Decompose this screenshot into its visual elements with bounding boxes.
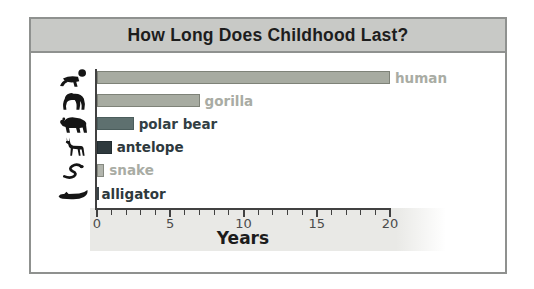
x-axis-minor-tick	[111, 210, 112, 215]
y-axis-line	[95, 69, 97, 210]
x-axis-minor-tick	[360, 210, 361, 215]
x-axis-minor-tick	[155, 210, 156, 215]
x-axis-tick-label: 20	[375, 216, 405, 231]
bar-human	[97, 71, 390, 84]
bar-antelope	[97, 141, 112, 154]
x-axis-minor-tick	[331, 210, 332, 215]
snake-icon	[62, 161, 84, 180]
chart-title: How Long Does Childhood Last?	[128, 25, 409, 46]
x-axis-minor-tick	[199, 210, 200, 215]
bar-label-gorilla: gorilla	[205, 93, 254, 108]
chart-area: humangorillapolar bearantelopesnakeallig…	[31, 53, 505, 270]
gorilla-icon	[61, 90, 86, 111]
x-axis-minor-tick	[126, 210, 127, 215]
x-axis-minor-tick	[184, 210, 185, 215]
chart-title-bar: How Long Does Childhood Last?	[31, 19, 505, 53]
bar-label-antelope: antelope	[117, 140, 184, 155]
bar-gorilla	[97, 94, 200, 107]
x-axis-minor-tick	[346, 210, 347, 215]
bar-alligator	[97, 187, 99, 200]
bar-label-human: human	[395, 70, 447, 85]
bar-label-polar-bear: polar bear	[139, 116, 218, 131]
x-axis-minor-tick	[258, 210, 259, 215]
alligator-icon	[57, 187, 89, 201]
polar-bear-icon	[58, 113, 88, 134]
x-axis-tick-label: 0	[82, 216, 112, 231]
bar-label-snake: snake	[109, 163, 154, 178]
x-axis-minor-tick	[287, 210, 288, 215]
chart-card: How Long Does Childhood Last? humangoril…	[29, 17, 507, 274]
x-axis-minor-tick	[228, 210, 229, 215]
bar-polar-bear	[97, 117, 134, 130]
x-axis-minor-tick	[140, 210, 141, 215]
x-axis-minor-tick	[375, 210, 376, 215]
x-axis-minor-tick	[272, 210, 273, 215]
bar-label-alligator: alligator	[102, 186, 166, 201]
x-axis-label: Years	[163, 228, 323, 248]
baby-icon	[58, 68, 88, 88]
x-axis-minor-tick	[302, 210, 303, 215]
antelope-icon	[61, 135, 85, 159]
x-axis-minor-tick	[214, 210, 215, 215]
bar-snake	[97, 164, 104, 177]
